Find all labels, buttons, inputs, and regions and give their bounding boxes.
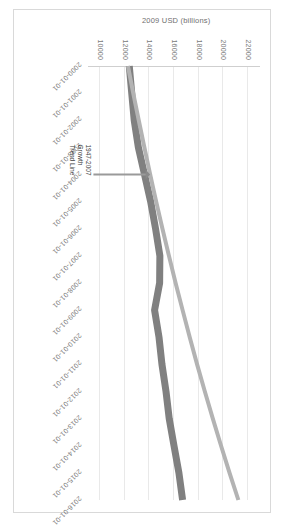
annotation-arrow-head bbox=[145, 169, 149, 179]
y-tick-label: 16000 bbox=[170, 39, 177, 59]
y-tick-label: 10000 bbox=[96, 39, 103, 59]
y-tick-label: 20000 bbox=[219, 39, 226, 59]
y-tick-label: 22000 bbox=[244, 39, 251, 59]
y-tick-label: 12000 bbox=[121, 39, 128, 59]
y-axis-title: 2009 USD (billions) bbox=[142, 15, 210, 24]
plot-area: 10000120001400016000180002000022000 2000… bbox=[88, 66, 260, 500]
y-tick-label: 18000 bbox=[195, 39, 202, 59]
y-tick-label: 14000 bbox=[145, 39, 152, 59]
trend-line-annotation-label: 1947-2007 Growth Trend Line bbox=[68, 144, 92, 175]
chart-figure: 2009 USD (billions) 10000120001400016000… bbox=[13, 9, 271, 513]
rotated-figure-wrapper: 2009 USD (billions) 10000120001400016000… bbox=[13, 9, 271, 513]
annotation-arrow bbox=[88, 66, 260, 500]
